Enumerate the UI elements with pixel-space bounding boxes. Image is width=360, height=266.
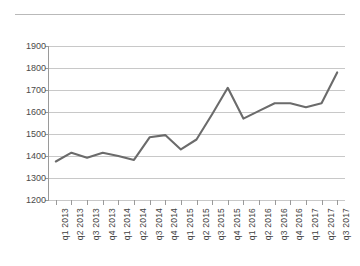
data-series-line bbox=[0, 0, 360, 266]
chart-page: 19001800170016001500140013001200 q1 2013… bbox=[0, 0, 360, 266]
line-chart: 19001800170016001500140013001200 q1 2013… bbox=[0, 0, 360, 266]
series-polyline bbox=[56, 72, 337, 161]
